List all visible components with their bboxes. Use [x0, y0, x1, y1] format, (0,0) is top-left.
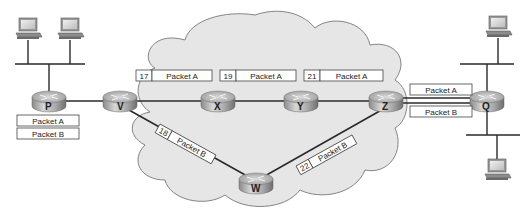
computer-icon [486, 16, 512, 37]
packet-sequence: 19 [224, 72, 233, 81]
computer-icon [485, 159, 511, 180]
packet-label: Packet B [32, 130, 64, 139]
router-label: Y [297, 101, 304, 112]
computer-icon [58, 18, 84, 39]
packet-queue-z-to-q: Packet A Packet B [410, 84, 472, 117]
packet-label: Packet A [425, 86, 457, 95]
router-label: P [45, 101, 52, 112]
packet-label: Packet A [250, 72, 282, 81]
router-label: Z [382, 101, 388, 112]
packet-21: 21 Packet A [304, 70, 383, 81]
computer-icon [16, 18, 42, 39]
router-label: Q [482, 101, 490, 112]
router-P: P [32, 91, 66, 112]
packet-queue-at-p: Packet A Packet B [17, 115, 79, 139]
router-W: W [239, 173, 273, 194]
packet-label: Packet A [32, 117, 64, 126]
router-label: V [117, 101, 124, 112]
packet-label: Packet A [166, 72, 198, 81]
router-Z: Z [369, 91, 403, 112]
router-Q: Q [470, 91, 504, 112]
packet-sequence: 17 [140, 72, 149, 81]
network-diagram: P V X Y Z W Q Packet A Packet B 17 Packe… [0, 0, 529, 220]
packet-label: Packet B [425, 108, 457, 117]
left-lan [15, 18, 85, 100]
router-Y: Y [284, 91, 318, 112]
router-X: X [201, 91, 235, 112]
packet-19: 19 Packet A [220, 70, 296, 81]
router-V: V [103, 91, 137, 112]
router-label: W [251, 183, 261, 194]
router-label: X [214, 101, 221, 112]
packet-label: Packet A [336, 72, 368, 81]
packet-17: 17 Packet A [136, 70, 212, 81]
packet-sequence: 21 [308, 72, 317, 81]
